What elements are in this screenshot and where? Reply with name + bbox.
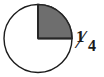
shaded-quarter-sector [38,5,72,39]
fraction-label: 1 ⁄ 4 [75,28,104,58]
fraction-denominator: 4 [88,38,96,54]
fraction-slash-icon: ⁄ [79,27,83,52]
fraction-circle-diagram: 1 ⁄ 4 [0,0,104,77]
